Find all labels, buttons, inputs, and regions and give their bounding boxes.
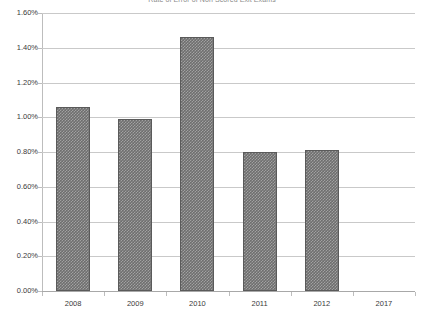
y-tick-mark — [38, 117, 42, 118]
y-tick-label: 0.20% — [2, 252, 38, 260]
x-tick-label: 2012 — [291, 299, 353, 308]
y-tick-mark — [38, 187, 42, 188]
x-tick-mark — [415, 292, 416, 296]
chart-title: Rate of Error of Non Scored Exit Exams — [0, 0, 424, 5]
bar-chart: Rate of Error of Non Scored Exit Exams 0… — [0, 0, 424, 318]
x-tick-mark — [291, 292, 292, 296]
gridline — [42, 13, 415, 14]
gridline — [42, 187, 415, 188]
bar — [305, 150, 339, 291]
y-tick-mark — [38, 152, 42, 153]
y-tick-mark — [38, 13, 42, 14]
gridline — [42, 48, 415, 49]
bar — [180, 37, 214, 291]
x-tick-label: 2008 — [42, 299, 104, 308]
bar — [56, 107, 90, 291]
y-tick-label: 1.20% — [2, 79, 38, 87]
y-tick-label: 0.60% — [2, 183, 38, 191]
x-tick-mark — [42, 292, 43, 296]
x-tick-label: 2017 — [353, 299, 415, 308]
y-axis-labels: 0.00%0.20%0.40%0.60%0.80%1.00%1.20%1.40%… — [0, 0, 38, 318]
x-tick-label: 2009 — [104, 299, 166, 308]
y-tick-label: 0.40% — [2, 218, 38, 226]
x-tick-mark — [166, 292, 167, 296]
x-tick-label: 2011 — [229, 299, 291, 308]
plot-area — [42, 13, 415, 291]
x-tick-mark — [229, 292, 230, 296]
y-tick-label: 1.00% — [2, 113, 38, 121]
x-tick-label: 2010 — [166, 299, 228, 308]
y-tick-mark — [38, 48, 42, 49]
gridline — [42, 222, 415, 223]
y-tick-label: 0.80% — [2, 148, 38, 156]
bar — [243, 152, 277, 291]
gridline — [42, 256, 415, 257]
x-tick-mark — [353, 292, 354, 296]
y-tick-label: 1.60% — [2, 9, 38, 17]
y-tick-mark — [38, 83, 42, 84]
y-tick-label: 0.00% — [2, 287, 38, 295]
gridline — [42, 152, 415, 153]
bar — [118, 119, 152, 291]
gridline — [42, 83, 415, 84]
y-tick-mark — [38, 256, 42, 257]
y-tick-label: 1.40% — [2, 44, 38, 52]
x-tick-mark — [104, 292, 105, 296]
gridline — [42, 117, 415, 118]
y-tick-mark — [38, 222, 42, 223]
